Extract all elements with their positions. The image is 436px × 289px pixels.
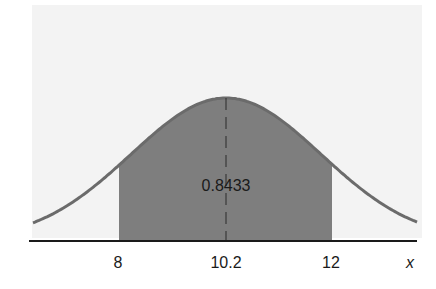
normal-distribution-chart: 0.8433 8 10.2 12 x <box>0 0 436 289</box>
x-tick-12: 12 <box>322 254 340 271</box>
shaded-area-label: 0.8433 <box>202 177 251 194</box>
x-tick-mean: 10.2 <box>210 254 241 271</box>
x-axis-label: x <box>405 254 415 271</box>
x-tick-8: 8 <box>114 254 123 271</box>
